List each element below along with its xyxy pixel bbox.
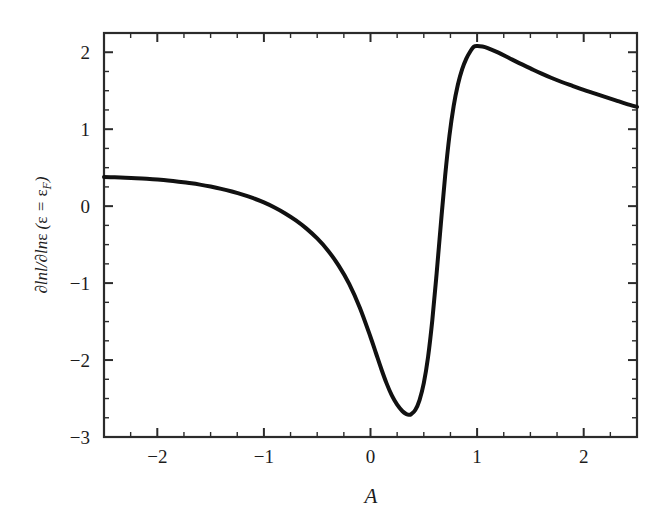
y-tick-label: −2 bbox=[70, 350, 90, 371]
x-tick-label: 2 bbox=[579, 446, 589, 467]
x-tick-label: 0 bbox=[366, 446, 376, 467]
y-axis-title-group: ∂lnl/∂lnε (ε = εF) bbox=[32, 176, 54, 293]
y-tick-label: 0 bbox=[81, 196, 91, 217]
x-tick-label: −2 bbox=[147, 446, 167, 467]
x-axis-title: A bbox=[363, 484, 378, 508]
y-tick-label: −3 bbox=[70, 427, 90, 448]
figure-container: −2−1012 −3−2−1012 A ∂lnl/∂lnε (ε = εF) bbox=[0, 0, 656, 522]
x-tick-label: −1 bbox=[254, 446, 274, 467]
y-axis-title: ∂lnl/∂lnε (ε = εF) bbox=[32, 176, 54, 293]
chart-plot: −2−1012 −3−2−1012 A ∂lnl/∂lnε (ε = εF) bbox=[0, 0, 656, 522]
y-tick-label: 2 bbox=[81, 42, 91, 63]
y-tick-label: −1 bbox=[70, 273, 90, 294]
y-tick-label: 1 bbox=[81, 119, 91, 140]
x-tick-label: 1 bbox=[472, 446, 482, 467]
